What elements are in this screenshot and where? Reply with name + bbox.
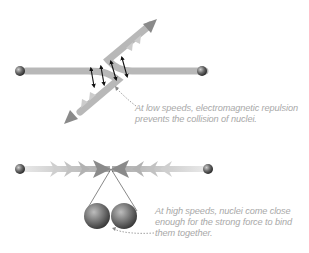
figure-caption-partial: Figure 14.6 (partially visible, cut off)	[10, 242, 181, 253]
fused-nucleus-left	[84, 203, 110, 229]
dotted-pointer-icon	[116, 88, 136, 106]
fused-nucleus-right	[111, 203, 137, 229]
high-speed-annotation: At high speeds, nuclei come close enough…	[155, 206, 305, 239]
outgoing-arrow-down-icon	[64, 110, 78, 124]
nucleus-sphere-icon	[15, 66, 25, 76]
nucleus-sphere-icon	[15, 164, 25, 174]
right-trajectory	[108, 25, 205, 71]
dotted-pointer-icon	[114, 229, 154, 233]
nucleus-sphere-icon	[197, 66, 207, 76]
low-speed-annotation: At low speeds, electromagnetic repulsion…	[135, 103, 309, 125]
left-trajectory	[26, 71, 118, 112]
nucleus-sphere-icon	[203, 164, 213, 174]
